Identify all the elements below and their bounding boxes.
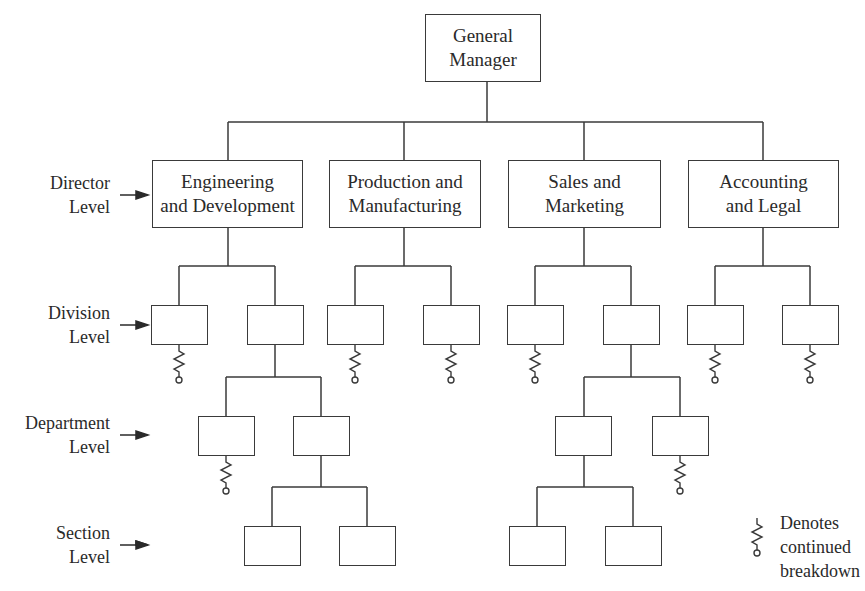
general-manager-box: General Manager xyxy=(425,14,541,82)
level-label-line: Director xyxy=(0,171,110,195)
level-label-line: Division xyxy=(0,301,110,325)
legend-line: Denotes xyxy=(780,511,860,535)
level-label-line: Level xyxy=(0,325,110,349)
director-label: Sales and xyxy=(548,170,620,194)
level-label-line: Department xyxy=(0,411,110,435)
director-label: Marketing xyxy=(545,194,624,218)
general-manager-line2: Manager xyxy=(449,48,517,72)
level-label-line: Section xyxy=(0,521,110,545)
division-box xyxy=(247,305,304,345)
director-production-box: Production and Manufacturing xyxy=(329,160,481,228)
level-label-director: Director Level xyxy=(0,171,110,219)
continued-breakdown-icon xyxy=(530,345,540,383)
director-label: and Legal xyxy=(726,194,801,218)
director-label: Manufacturing xyxy=(349,194,462,218)
continued-breakdown-icon xyxy=(350,345,360,383)
continued-breakdown-icon xyxy=(446,345,456,383)
org-chart-connectors xyxy=(0,0,865,591)
continued-breakdown-icon xyxy=(675,456,685,494)
level-label-department: Department Level xyxy=(0,411,110,459)
section-box xyxy=(509,526,566,566)
director-label: Engineering xyxy=(181,170,274,194)
director-label: Accounting xyxy=(719,170,808,194)
department-box xyxy=(198,416,255,456)
section-box xyxy=(339,526,396,566)
legend-breakdown-icon xyxy=(752,518,762,556)
legend-line: breakdown xyxy=(780,559,860,583)
division-box xyxy=(687,305,744,345)
level-label-line: Level xyxy=(0,195,110,219)
legend-line: continued xyxy=(780,535,860,559)
general-manager-line1: General xyxy=(453,24,513,48)
level-label-line: Level xyxy=(0,545,110,569)
department-box xyxy=(555,416,612,456)
division-box xyxy=(327,305,384,345)
division-box xyxy=(507,305,564,345)
department-box xyxy=(652,416,709,456)
continued-breakdown-icon xyxy=(221,456,231,494)
department-box xyxy=(293,416,350,456)
director-accounting-box: Accounting and Legal xyxy=(688,160,839,228)
director-label: Production and xyxy=(347,170,463,194)
continued-breakdown-icon xyxy=(174,345,184,383)
division-box xyxy=(423,305,480,345)
continued-breakdown-icon xyxy=(805,345,815,383)
level-label-line: Level xyxy=(0,435,110,459)
director-label: and Development xyxy=(160,194,295,218)
level-label-division: Division Level xyxy=(0,301,110,349)
section-box xyxy=(605,526,662,566)
director-sales-box: Sales and Marketing xyxy=(508,160,661,228)
level-label-section: Section Level xyxy=(0,521,110,569)
division-box xyxy=(782,305,839,345)
legend-text: Denotes continued breakdown xyxy=(780,511,860,583)
division-box xyxy=(151,305,208,345)
section-box xyxy=(244,526,301,566)
continued-breakdown-icon xyxy=(710,345,720,383)
director-engineering-box: Engineering and Development xyxy=(152,160,303,228)
division-box xyxy=(603,305,660,345)
